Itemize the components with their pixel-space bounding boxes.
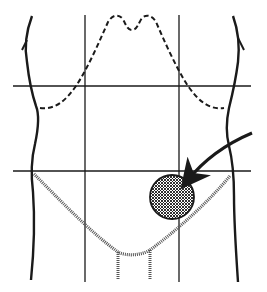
lesion-marker-circle: [150, 175, 194, 219]
pointer-arrow: [188, 133, 252, 180]
right-flank-line: [227, 16, 239, 282]
abdominal-region-diagram: [0, 0, 267, 292]
left-flank-line: [26, 16, 39, 280]
diagram-canvas: [0, 0, 267, 292]
region-grid: [13, 15, 251, 282]
rib-cage-margin-dashed: [40, 16, 224, 109]
body-outline: [22, 16, 244, 282]
inguinal-line-hatched: [34, 174, 230, 280]
